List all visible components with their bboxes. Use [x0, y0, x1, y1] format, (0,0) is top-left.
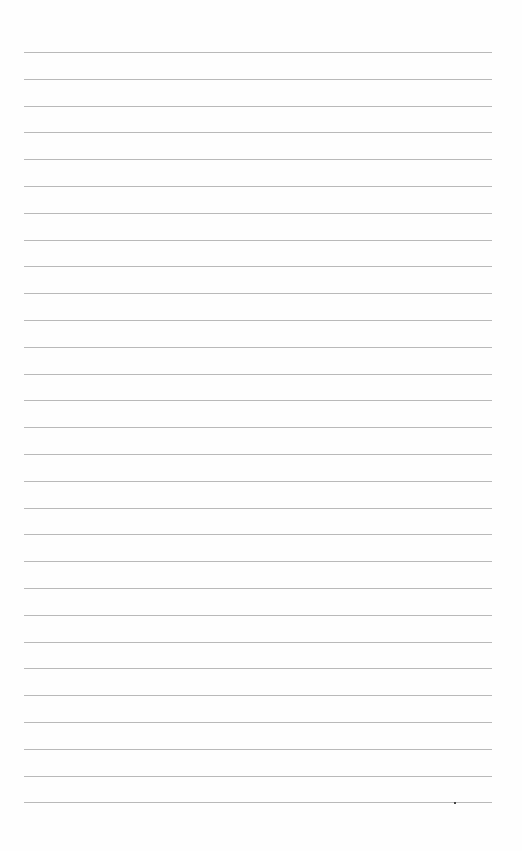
ruled-line — [24, 802, 492, 803]
ruled-line — [24, 79, 492, 80]
ruled-line — [24, 668, 492, 669]
ruled-line — [24, 722, 492, 723]
ruled-line — [24, 454, 492, 455]
ruled-line — [24, 427, 492, 428]
ink-dot-mark — [454, 802, 456, 804]
ruled-line — [24, 481, 492, 482]
ruled-line — [24, 642, 492, 643]
ruled-line — [24, 508, 492, 509]
ruled-line — [24, 615, 492, 616]
lined-paper-page — [0, 0, 522, 851]
ruled-line — [24, 588, 492, 589]
ruled-line — [24, 695, 492, 696]
ruled-line — [24, 240, 492, 241]
ruled-line — [24, 106, 492, 107]
ruled-line — [24, 266, 492, 267]
ruled-line — [24, 52, 492, 53]
ruled-line — [24, 159, 492, 160]
ruled-line — [24, 561, 492, 562]
ruled-line — [24, 186, 492, 187]
ruled-line — [24, 776, 492, 777]
ruled-line — [24, 347, 492, 348]
ruled-line — [24, 320, 492, 321]
ruled-line — [24, 400, 492, 401]
ruled-line — [24, 293, 492, 294]
ruled-line — [24, 534, 492, 535]
ruled-line — [24, 132, 492, 133]
ruled-line — [24, 213, 492, 214]
ruled-line — [24, 749, 492, 750]
ruled-line — [24, 374, 492, 375]
